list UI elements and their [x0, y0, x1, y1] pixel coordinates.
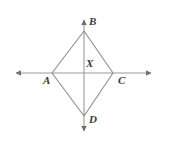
- edge-a-b: [52, 31, 84, 73]
- edge-d-a: [52, 73, 84, 116]
- vertex-label-b: B: [89, 16, 96, 27]
- vertex-label-c: C: [118, 75, 125, 86]
- edge-c-d: [84, 73, 113, 116]
- center-point-label-x: X: [86, 58, 93, 69]
- geometry-figure: B A C D X: [0, 0, 170, 147]
- vertex-label-d: D: [89, 114, 97, 125]
- geometry-diagram-svg: [0, 0, 170, 147]
- vertex-label-a: A: [43, 75, 50, 86]
